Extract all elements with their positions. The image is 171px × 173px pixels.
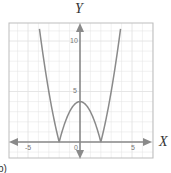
grid-lines (9, 23, 153, 158)
x-axis-right-arrow-icon (143, 138, 152, 146)
x-axis-title: X (159, 134, 168, 150)
x-tick-label: -5 (25, 144, 31, 151)
panel-label: b) (0, 163, 7, 173)
y-tick-label: 10 (70, 37, 78, 44)
plot-frame (9, 23, 153, 158)
x-tick-label: 5 (131, 144, 135, 151)
x-axis-left-arrow-icon (9, 138, 18, 146)
y-axis-title: Y (75, 1, 83, 17)
x-tick-label: 0 (74, 144, 78, 151)
y-axis-up-arrow-icon (76, 23, 84, 32)
y-tick-label: 5 (73, 87, 77, 94)
